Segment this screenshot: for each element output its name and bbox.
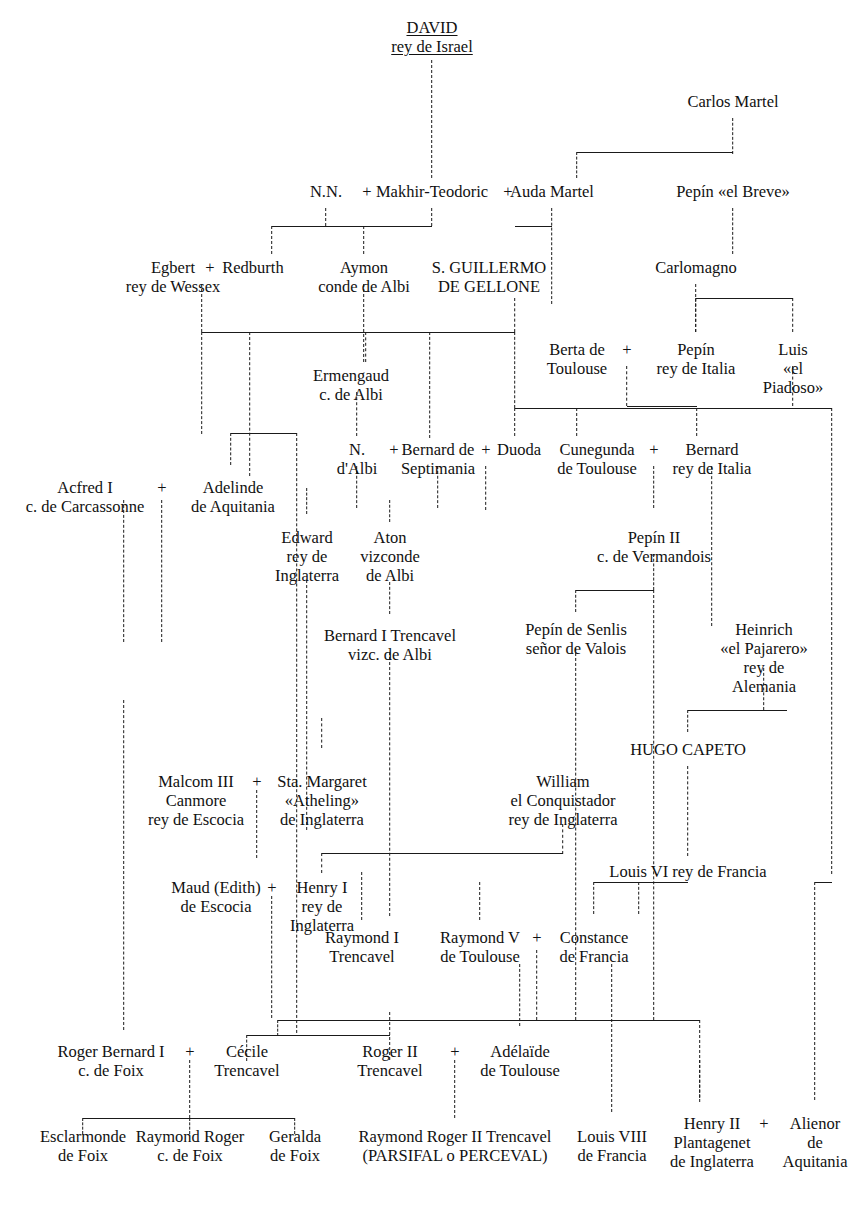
person-node-guillermo: S. GUILLERMO DE GELLONE: [432, 258, 547, 296]
person-node-heinrich: Heinrich «el Pajarero» rey de Alemania: [715, 620, 813, 697]
person-node-acfred: Acfred I c. de Carcassonne: [26, 478, 145, 516]
person-node-constance: Constance de Francia: [559, 928, 628, 966]
marriage-plus-p-cune-bernardita: +: [649, 440, 658, 460]
person-node-bernard_sept: Bernard de Septimania: [401, 440, 475, 478]
descent-line-vertical: [249, 332, 250, 476]
person-node-pepin_senlis: Pepín de Senlis señor de Valois: [525, 620, 627, 658]
marriage-plus-p-makhir-auda: +: [503, 182, 512, 202]
descent-line-vertical: [696, 408, 697, 436]
descent-line-vertical: [699, 1060, 700, 1102]
descent-line-vertical: [389, 582, 390, 614]
descent-line-vertical: [732, 208, 733, 254]
descent-line-vertical: [431, 208, 432, 226]
marriage-plus-p-rogerb-cecile: +: [185, 1042, 194, 1062]
person-node-pepin_breve: Pepín «el Breve»: [676, 182, 790, 201]
descent-line-vertical: [454, 1060, 455, 1118]
person-node-louis_vi: Louis VI rey de Francia: [609, 862, 766, 881]
descent-line-vertical: [201, 332, 202, 434]
descent-line-vertical: [325, 208, 326, 226]
descent-line-vertical: [653, 590, 654, 1020]
descent-line-vertical: [296, 433, 297, 1033]
sibling-bar-horizontal: [278, 1020, 700, 1021]
descent-line-vertical: [611, 964, 612, 1112]
sibling-bar-horizontal: [627, 406, 697, 407]
descent-line-vertical: [711, 466, 712, 626]
descent-line-vertical: [271, 226, 272, 254]
marriage-plus-p-raymondv-const: +: [532, 928, 541, 948]
marriage-plus-p-berta-pepin: +: [622, 340, 631, 360]
marriage-plus-p-maud-henry: +: [267, 878, 276, 898]
descent-line-vertical: [593, 882, 594, 914]
descent-line-vertical: [576, 408, 577, 436]
person-node-raymond_v: Raymond V de Toulouse: [440, 928, 520, 966]
person-node-william: William el Conquistador rey de Inglaterr…: [508, 772, 617, 829]
descent-line-vertical: [576, 152, 577, 178]
descent-line-vertical: [365, 332, 366, 362]
descent-line-vertical: [514, 408, 515, 436]
marriage-plus-p-henryii-alienor: +: [759, 1114, 768, 1134]
person-node-margaret: Sta. Margaret «Atheling» de Inglaterra: [277, 772, 367, 829]
descent-line-vertical: [814, 882, 815, 1100]
descent-line-vertical: [230, 433, 231, 465]
sibling-bar-horizontal: [594, 882, 688, 883]
descent-line-vertical: [256, 790, 257, 858]
descent-line-vertical: [551, 208, 552, 304]
person-node-louis_viii: Louis VIII de Francia: [577, 1127, 647, 1165]
descent-line-vertical: [271, 896, 272, 1018]
person-node-aton: Aton vizconde de Albi: [360, 528, 420, 585]
descent-line-vertical: [732, 118, 733, 154]
descent-line-vertical: [792, 298, 793, 332]
person-node-pepin_italia: Pepín rey de Italia: [657, 340, 736, 378]
genealogy-chart: DAVID rey de IsraelCarlos MartelN.N.Makh…: [0, 0, 862, 1216]
person-node-carlos_martel: Carlos Martel: [687, 92, 778, 111]
person-node-maud: Maud (Edith) de Escocia: [171, 878, 260, 916]
descent-line-vertical: [189, 1060, 190, 1118]
descent-line-vertical: [321, 853, 322, 873]
person-node-auda: Auda Martel: [510, 182, 594, 201]
marriage-plus-p-acfred-adelinde: +: [157, 478, 166, 498]
sibling-bar-horizontal: [576, 590, 654, 591]
descent-line-vertical: [519, 964, 520, 1026]
marriage-plus-p-egbert-redburth: +: [205, 258, 214, 278]
descent-line-vertical: [306, 488, 307, 514]
person-node-raymond_rog: Raymond Roger c. de Foix: [136, 1127, 245, 1165]
person-node-bernard_ita: Bernard rey de Italia: [673, 440, 752, 478]
person-node-alienor: Alienor de Aquitania: [782, 1114, 847, 1171]
descent-line-vertical: [485, 466, 486, 510]
person-node-parsifal: Raymond Roger II Trencavel (PARSIFAL o P…: [359, 1127, 552, 1165]
descent-line-vertical: [277, 1020, 278, 1036]
sibling-bar-horizontal: [247, 1035, 390, 1036]
sibling-bar-horizontal: [202, 332, 515, 333]
person-node-roger_bern: Roger Bernard I c. de Foix: [57, 1042, 164, 1080]
descent-line-vertical: [575, 590, 576, 612]
person-node-cunegunda: Cunegunda de Toulouse: [557, 440, 637, 478]
person-node-aymon: Aymon conde de Albi: [318, 258, 410, 296]
person-node-raymond_i: Raymond I Trencavel: [325, 928, 399, 966]
descent-line-vertical: [687, 766, 688, 856]
person-node-bernard_tren: Bernard I Trencavel vizc. de Albi: [324, 626, 456, 664]
marriage-plus-p-nalbi-bernard: +: [389, 440, 398, 460]
person-node-roger_ii: Roger II Trencavel: [357, 1042, 422, 1080]
person-node-adelaide: Adélaïde de Toulouse: [480, 1042, 560, 1080]
descent-line-vertical: [638, 882, 639, 914]
descent-line-vertical: [479, 882, 480, 920]
descent-line-vertical: [389, 500, 390, 522]
person-node-carlomagno: Carlomagno: [655, 258, 737, 277]
descent-line-vertical: [687, 710, 688, 732]
person-node-edward: Edward rey de Inglaterra: [275, 528, 339, 585]
person-node-hugo_capeto: HUGO CAPETO: [630, 740, 746, 759]
person-node-malcolm: Malcom III Canmore rey de Escocia: [148, 772, 244, 829]
descent-line-vertical: [361, 872, 362, 920]
marriage-plus-p-malcolm-marg: +: [252, 772, 261, 792]
person-node-berta: Berta de Toulouse: [547, 340, 607, 378]
person-node-duoda: Duoda: [497, 440, 541, 459]
person-node-david: DAVID rey de Israel: [391, 18, 473, 56]
sibling-bar-horizontal: [272, 226, 432, 227]
person-node-redburth: Redburth: [222, 258, 283, 277]
person-node-henry_ii: Henry II Plantagenet de Inglaterra: [670, 1114, 754, 1171]
descent-line-vertical: [653, 466, 654, 508]
sibling-bar-horizontal: [515, 226, 552, 227]
person-node-geralda: Geralda de Foix: [269, 1127, 321, 1165]
person-node-makhir: Makhir-Teodoric: [376, 182, 488, 201]
sibling-bar-horizontal: [815, 882, 832, 883]
